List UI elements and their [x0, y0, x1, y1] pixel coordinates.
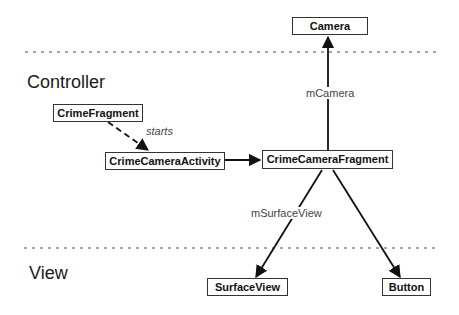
edge-button: [333, 170, 400, 277]
edge-label-mcamera: mCamera: [305, 87, 355, 99]
edge-msurfaceview: [256, 170, 322, 277]
node-camera: Camera: [292, 17, 368, 35]
node-crime-camera-fragment: CrimeCameraFragment: [262, 150, 393, 169]
layer-label-view: View: [29, 263, 68, 284]
layer-label-controller: Controller: [27, 72, 105, 93]
node-button: Button: [382, 278, 431, 296]
node-surface-view: SurfaceView: [207, 278, 288, 296]
node-crime-fragment: CrimeFragment: [53, 104, 143, 122]
edge-label-msurfaceview: mSurfaceView: [250, 207, 323, 219]
edge-starts: [108, 122, 148, 150]
node-crime-camera-activity: CrimeCameraActivity: [105, 152, 225, 170]
edge-label-starts: starts: [146, 125, 173, 137]
